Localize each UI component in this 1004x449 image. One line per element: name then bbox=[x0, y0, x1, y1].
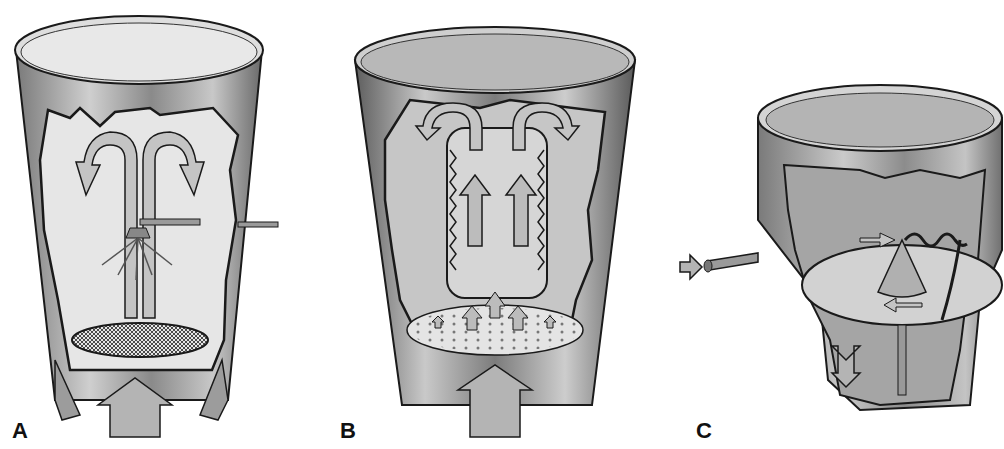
panel-label-b: B bbox=[340, 418, 356, 444]
bottom-spray-diagram bbox=[330, 0, 660, 449]
panel-a: A bbox=[0, 0, 300, 449]
panel-label-c: C bbox=[696, 418, 712, 444]
top-spray-diagram bbox=[0, 0, 300, 449]
rotor-diagram bbox=[660, 0, 1004, 449]
panel-c: C bbox=[660, 0, 1004, 449]
panel-label-a: A bbox=[12, 418, 28, 444]
panel-b: B bbox=[330, 0, 660, 449]
